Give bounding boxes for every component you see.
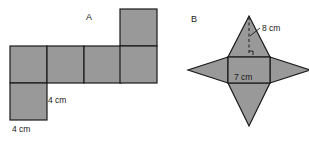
pyramid-face-right (270, 57, 309, 83)
diagram-canvas: A 4 cm 4 cm B 8 cm 7 cm (0, 0, 309, 145)
figure-b-label: B (191, 14, 197, 24)
pyramid-face-left (188, 57, 228, 83)
figure-b-net (0, 0, 309, 145)
figure-b-dimension-slant-height: 8 cm (262, 23, 280, 33)
pyramid-face-bottom (228, 83, 270, 126)
figure-b-dimension-base-edge: 7 cm (234, 72, 252, 82)
